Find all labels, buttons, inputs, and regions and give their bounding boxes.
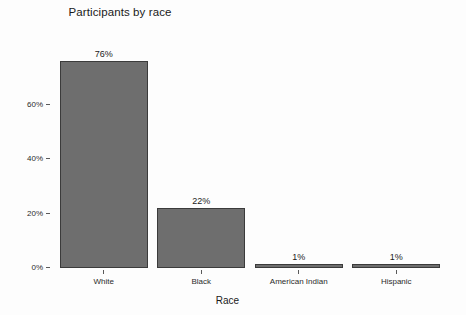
x-axis-tick-mark xyxy=(396,270,397,274)
chart-canvas: Participants by race Percent 0%20%40%60%… xyxy=(0,0,466,315)
y-axis-tick-label: 60% xyxy=(27,99,43,111)
x-axis-tick-mark xyxy=(298,270,299,274)
y-axis-tick: 60% xyxy=(0,99,55,111)
x-axis-tick-label: American Indian xyxy=(250,277,348,286)
x-axis-tick-label: Hispanic xyxy=(348,277,446,286)
x-axis-title: Race xyxy=(0,295,455,306)
y-axis-tick: 40% xyxy=(0,153,55,165)
x-axis-tick-mark xyxy=(103,270,104,274)
bar-value-label: 1% xyxy=(352,252,440,262)
bar[interactable] xyxy=(157,208,245,268)
y-axis-tick-mark xyxy=(46,104,50,105)
x-axis-tick-label: Black xyxy=(153,277,251,286)
bar[interactable] xyxy=(352,264,440,268)
bar[interactable] xyxy=(255,264,343,268)
y-axis-tick-mark xyxy=(46,158,50,159)
bar-value-label: 76% xyxy=(60,49,148,59)
y-axis-tick-label: 20% xyxy=(27,208,43,220)
y-axis-tick: 20% xyxy=(0,208,55,220)
bar-value-label: 22% xyxy=(157,196,245,206)
y-axis-tick: 0% xyxy=(0,262,55,274)
y-axis-tick-label: 40% xyxy=(27,153,43,165)
y-axis-tick-mark xyxy=(46,267,50,268)
y-axis-tick-mark xyxy=(46,213,50,214)
y-axis-tick-label: 0% xyxy=(31,262,43,274)
bar-value-label: 1% xyxy=(255,252,343,262)
bar[interactable] xyxy=(60,61,148,268)
x-axis-tick-label: White xyxy=(55,277,153,286)
chart-title: Participants by race xyxy=(0,6,240,18)
x-axis-tick-mark xyxy=(201,270,202,274)
plot-area: 0%20%40%60% 76%22%1%1% WhiteBlackAmerica… xyxy=(55,22,445,268)
